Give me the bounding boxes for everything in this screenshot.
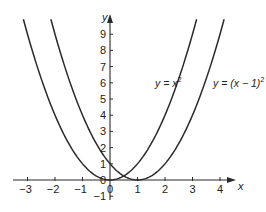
y-tick-label: 4 bbox=[100, 109, 106, 121]
y-tick-label: 9 bbox=[100, 28, 106, 40]
y-tick-label: 8 bbox=[100, 44, 106, 56]
x-tick-label: −1 bbox=[74, 183, 87, 195]
x-tick-label: 4 bbox=[217, 183, 223, 195]
x-tick-label: −3 bbox=[19, 183, 32, 195]
curves bbox=[23, 19, 224, 180]
x-axis-arrow-icon bbox=[227, 177, 236, 183]
y-tick-label: 5 bbox=[100, 93, 106, 105]
y-tick-label: 1 bbox=[100, 158, 106, 170]
y-tick-label: 3 bbox=[100, 125, 106, 137]
y-tick-label: 2 bbox=[100, 142, 106, 154]
curve-label: y = x2 bbox=[154, 75, 182, 89]
x-axis-label: x bbox=[237, 180, 244, 192]
curve-label: y = (x − 1)2 bbox=[212, 75, 264, 89]
y-axis-arrow-icon bbox=[107, 14, 113, 23]
axes bbox=[13, 14, 236, 200]
y-tick-label: −1 bbox=[93, 190, 106, 202]
x-tick-label: 2 bbox=[162, 183, 168, 195]
x-tick-label: 1 bbox=[134, 183, 140, 195]
x-tick-label: 0 bbox=[107, 183, 113, 195]
y-tick-label: 0 bbox=[100, 174, 106, 186]
y-tick-label: 7 bbox=[100, 61, 106, 73]
x-tick-label: −2 bbox=[47, 183, 60, 195]
parabola-chart: −3−2−101234−10123456789xyy = x2y = (x − … bbox=[0, 0, 266, 212]
x-tick-label: 3 bbox=[189, 183, 195, 195]
y-tick-label: 6 bbox=[100, 77, 106, 89]
